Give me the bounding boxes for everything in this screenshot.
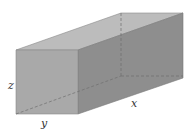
y-axis-label: y — [40, 117, 48, 130]
x-axis-label: x — [131, 97, 138, 110]
prism-diagram: z y x — [0, 0, 189, 132]
z-axis-label: z — [7, 79, 14, 92]
front-face — [16, 50, 78, 114]
